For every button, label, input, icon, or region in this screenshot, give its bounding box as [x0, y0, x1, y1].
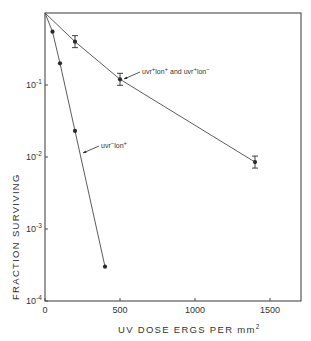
x-tick-label: 0: [42, 305, 47, 315]
y-tick-label: 10-1: [26, 78, 42, 90]
data-series: [45, 13, 258, 269]
y-axis-title: FRACTION SURVIVING: [10, 173, 21, 300]
data-point: [50, 30, 54, 34]
data-point: [73, 129, 77, 133]
survival-chart: 050010001500 10-110-210-310-4 uvr+lon+ a…: [0, 0, 311, 341]
x-tick-label: 500: [112, 305, 127, 315]
series-line: [45, 13, 105, 267]
data-point: [253, 160, 257, 164]
y-tick-label: 10-4: [26, 294, 42, 306]
data-point: [118, 77, 122, 81]
data-point: [58, 61, 62, 65]
x-tick-label: 1500: [260, 305, 280, 315]
plot-border: [45, 13, 301, 301]
x-axis-title: UV DOSE ERGS PER mm2: [118, 323, 261, 335]
plot-frame: [45, 13, 301, 301]
annotations: uvr+lon+ and uvr+lon−uvr−lon+: [83, 66, 210, 153]
y-tick-label: 10-2: [26, 150, 42, 162]
y-tick-label: 10-3: [26, 222, 42, 234]
annotation-uvr-plus: uvr+lon+ and uvr+lon−: [142, 66, 210, 75]
data-point: [103, 265, 107, 269]
data-point: [73, 40, 77, 44]
annotation-uvr-minus: uvr−lon+: [101, 140, 128, 149]
x-tick-label: 1000: [185, 305, 205, 315]
